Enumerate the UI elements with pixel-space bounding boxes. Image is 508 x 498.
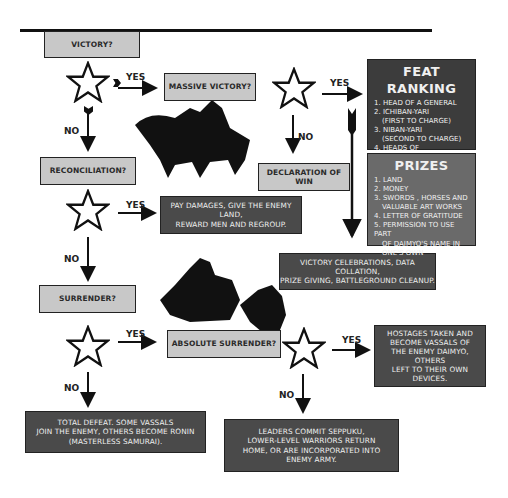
decision-star-icon (68, 327, 108, 365)
node-absolute-surrender-label: ABSOLUTE SURRENDER? (172, 339, 277, 348)
list-item: 3. SWORDS , HORSES AND (374, 194, 469, 203)
node-total-defeat: TOTAL DEFEAT. SOME VASSALS JOIN THE ENEM… (25, 411, 206, 453)
list-item: (SECOND TO CHARGE) (374, 135, 469, 144)
text-line: THE ENEMY DAIMYO, OTHERS (375, 347, 485, 365)
decision-star-icon (68, 63, 108, 101)
samurai-horseman-illustration (135, 100, 250, 178)
list-item: 1. LAND (374, 176, 469, 185)
list-item: VALUABLE ART WORKS (374, 203, 469, 212)
text-line: BECOME VASSALS OF (390, 338, 470, 347)
list-item: ONE'S OWN (374, 249, 469, 258)
node-massive-victory: MASSIVE VICTORY? (164, 73, 256, 101)
text-line: HOME, OR ARE INCORPORATED INTO (243, 446, 381, 455)
kneeling-samurai-illustration (160, 258, 286, 332)
node-declaration-label: DECLARATION OF WIN (259, 168, 349, 187)
yes-label: YES (342, 335, 361, 345)
node-declaration-of-win: DECLARATION OF WIN (258, 163, 350, 191)
node-victory-label: VICTORY? (71, 40, 113, 49)
text-line: VICTORY CELEBRATIONS, DATA COLLATION, (280, 258, 435, 276)
text-line: PAY DAMAGES, GIVE THE ENEMY LAND, (161, 201, 301, 219)
yes-label: YES (330, 78, 349, 88)
prizes-list: 1. LAND 2. MONEY 3. SWORDS , HORSES AND … (374, 176, 469, 258)
text-line: (MASTERLESS SAMURAI). (69, 437, 163, 446)
list-item: 4. LETTER OF GRATITUDE (374, 212, 469, 221)
decision-star-icon (284, 329, 324, 367)
node-surrender: SURRENDER? (39, 285, 136, 313)
no-label: NO (279, 390, 294, 400)
decision-star-icon (68, 191, 108, 229)
list-item: (FIRST TO CHARGE) (374, 117, 469, 126)
node-absolute-surrender: ABSOLUTE SURRENDER? (167, 330, 281, 358)
text-line: ENEMY ARMY. (286, 455, 337, 464)
node-victory: VICTORY? (44, 31, 140, 58)
node-hostages: HOSTAGES TAKEN AND BECOME VASSALS OF THE… (374, 325, 486, 387)
node-reconciliation-label: RECONCILIATION? (50, 166, 127, 175)
no-label: NO (298, 132, 313, 142)
decision-star-icon (274, 69, 314, 107)
node-seppuku: LEADERS COMMIT SEPPUKU, LOWER-LEVEL WARR… (224, 419, 399, 472)
node-pay-damages: PAY DAMAGES, GIVE THE ENEMY LAND, REWARD… (160, 196, 302, 234)
feat-ranking-panel: FEAT RANKING 1. HEAD OF A GENERAL 2. ICH… (367, 59, 476, 150)
text-line: LOWER-LEVEL WARRIORS RETURN (247, 436, 375, 445)
no-label: NO (64, 254, 79, 264)
text-line: PRIZE GIVING, BATTLEGROUND CLEANUP. (280, 276, 435, 285)
yes-label: YES (126, 329, 145, 339)
list-item: 2. ICHIBAN-YARI (374, 108, 469, 117)
list-item: 2. MONEY (374, 185, 469, 194)
list-item: 5. PERMISSION TO USE PART (374, 221, 469, 239)
list-item: 3. NIBAN-YARI (374, 126, 469, 135)
node-reconciliation: RECONCILIATION? (40, 157, 136, 185)
text-line: JOIN THE ENEMY, OTHERS BECOME RONIN (36, 427, 194, 436)
node-victory-celebrations: VICTORY CELEBRATIONS, DATA COLLATION, PR… (279, 253, 436, 290)
node-massive-victory-label: MASSIVE VICTORY? (169, 82, 251, 91)
no-label: NO (64, 383, 79, 393)
text-line: LEADERS COMMIT SEPPUKU, (258, 427, 364, 436)
text-line: REWARD MEN AND REGROUP. (176, 220, 287, 229)
feat-ranking-title: FEAT RANKING (374, 64, 469, 98)
prizes-panel: PRIZES 1. LAND 2. MONEY 3. SWORDS , HORS… (367, 153, 476, 246)
yes-label: YES (126, 200, 145, 210)
no-label: NO (64, 126, 79, 136)
prizes-title: PRIZES (374, 158, 469, 175)
text-line: TOTAL DEFEAT. SOME VASSALS (58, 418, 174, 427)
node-surrender-label: SURRENDER? (59, 294, 116, 303)
list-item: OF DAIMYO'S NAME IN (374, 240, 469, 249)
list-item: 1. HEAD OF A GENERAL (374, 99, 469, 108)
text-line: HOSTAGES TAKEN AND (387, 329, 473, 338)
yes-label: YES (126, 72, 145, 82)
text-line: LEFT TO THEIR OWN DEVICES. (375, 365, 485, 383)
